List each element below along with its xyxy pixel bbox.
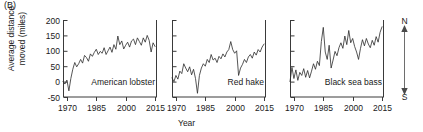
- y-tick-label: 150: [46, 31, 60, 41]
- series-label: American lobster: [91, 77, 155, 87]
- x-tick-label: 1970: [285, 103, 304, 113]
- x-tick-label: 2000: [344, 103, 363, 113]
- panels-group: -500501001502001970198520002015American …: [46, 16, 392, 114]
- x-tick-label: 2000: [117, 103, 136, 113]
- compass-annotation: NS: [401, 16, 407, 102]
- y-tick-label: 0: [55, 77, 60, 87]
- y-tick-label: 100: [46, 46, 60, 56]
- chart-panel-1: -500501001502001970198520002015American …: [46, 16, 165, 114]
- series-label: Black sea bass: [325, 77, 382, 87]
- x-tick-label: 2000: [226, 103, 245, 113]
- chart-panel-2: 1970198520002015Red hake: [167, 20, 274, 113]
- chart-panel-3: 1970198520002015Black sea bass: [285, 20, 392, 113]
- series-line: [290, 27, 382, 82]
- x-tick-label: 2015: [146, 103, 165, 113]
- y-tick-label: 200: [46, 16, 60, 26]
- x-tick-label: 1970: [58, 103, 77, 113]
- compass-north-label: N: [401, 16, 407, 26]
- y-tick-label: -50: [48, 93, 61, 103]
- y-tick-label: 50: [51, 62, 61, 72]
- chart-canvas: -500501001502001970198520002015American …: [0, 0, 423, 132]
- compass-north-arrowhead: [401, 25, 407, 32]
- x-tick-label: 2015: [373, 103, 392, 113]
- x-tick-label: 1970: [167, 103, 186, 113]
- x-tick-label: 2015: [255, 103, 274, 113]
- series-label: Red hake: [228, 77, 265, 87]
- x-tick-label: 1985: [87, 103, 106, 113]
- x-tick-label: 1985: [196, 103, 215, 113]
- x-tick-label: 1985: [314, 103, 333, 113]
- figure-panel-b: (B) Average distance moved (miles) Year …: [0, 0, 423, 132]
